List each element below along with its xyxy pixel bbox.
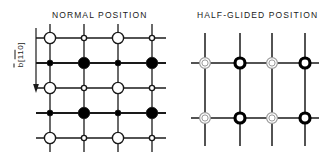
axis-symbol: b xyxy=(15,62,25,67)
lattice-node-small-open xyxy=(81,35,86,40)
lattice-node-small-open xyxy=(149,35,154,40)
lattice-node-large-open xyxy=(112,32,123,43)
lattice-node-large-filled xyxy=(146,107,158,119)
lattice-node-large-open xyxy=(44,32,55,43)
lattice-node-small-open xyxy=(149,85,154,90)
lattice-halfglided-svg xyxy=(186,28,320,150)
lattice-node-small-filled xyxy=(115,110,121,116)
lattice-node-small-open xyxy=(149,135,154,140)
lattice-node-small-open xyxy=(81,135,86,140)
lattice-node-large-open xyxy=(44,132,55,143)
lattice-node-large-filled xyxy=(146,57,158,69)
lattice-node-small-filled xyxy=(47,110,53,116)
lattice-halfglided-position xyxy=(186,28,320,150)
lattice-normal-position xyxy=(36,22,168,150)
lattice-halfglided-vertical-lines xyxy=(205,33,305,146)
lattice-node-bold-ring xyxy=(300,58,310,68)
lattice-node-large-open xyxy=(112,132,123,143)
lattice-node-large-filled xyxy=(78,57,90,69)
panel-title-normal: NORMAL POSITION xyxy=(52,10,148,20)
axis-direction-tail: 0 xyxy=(16,45,25,50)
lattice-halfglided-nodes xyxy=(200,58,310,124)
lattice-normal-svg xyxy=(36,22,168,150)
lattice-node-small-filled xyxy=(115,60,121,66)
axis-label: b[110] xyxy=(16,28,25,82)
axis-direction-overline: 11 xyxy=(16,50,25,60)
lattice-node-bold-ring xyxy=(235,58,245,68)
lattice-node-large-open xyxy=(112,82,123,93)
lattice-halfglided-horizontal-lines xyxy=(191,63,319,118)
axis-indicator: b[110] xyxy=(6,28,40,100)
lattice-node-bold-ring xyxy=(235,113,245,123)
lattice-node-large-open xyxy=(44,82,55,93)
lattice-node-bold-ring xyxy=(300,113,310,123)
lattice-node-small-open xyxy=(81,85,86,90)
lattice-node-faint-ring xyxy=(200,58,211,69)
lattice-node-faint-ring xyxy=(200,113,211,124)
lattice-node-faint-ring xyxy=(267,113,278,124)
lattice-node-faint-ring xyxy=(267,58,278,69)
axis-bracket-close: ] xyxy=(16,42,25,45)
panel-title-halfglided: HALF-GLIDED POSITION xyxy=(197,10,318,20)
lattice-node-small-filled xyxy=(47,60,53,66)
lattice-figure: NORMAL POSITION HALF-GLIDED POSITION b[1… xyxy=(0,0,327,158)
lattice-node-large-filled xyxy=(78,107,90,119)
